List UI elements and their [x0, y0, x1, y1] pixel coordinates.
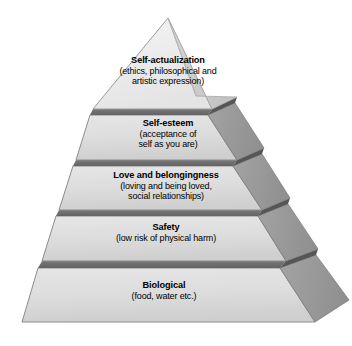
tier-safety-front-face: [42, 216, 286, 261]
tier-self-esteem-divider-band: [90, 109, 212, 115]
maslow-pyramid-diagram: Self-actualization (ethics, philosophica…: [0, 0, 352, 346]
tier-love-front-face: [59, 166, 262, 210]
tier-biological-front-face: [22, 268, 315, 322]
tier-self-actualization-shape: [93, 18, 237, 109]
pyramid-graphic: [0, 0, 352, 346]
tier-safety-divider-band: [56, 210, 262, 216]
tier-love-divider-band: [73, 160, 237, 166]
tier-biological-divider-band: [38, 261, 286, 268]
tier-self-actualization-front-face: [93, 18, 212, 109]
